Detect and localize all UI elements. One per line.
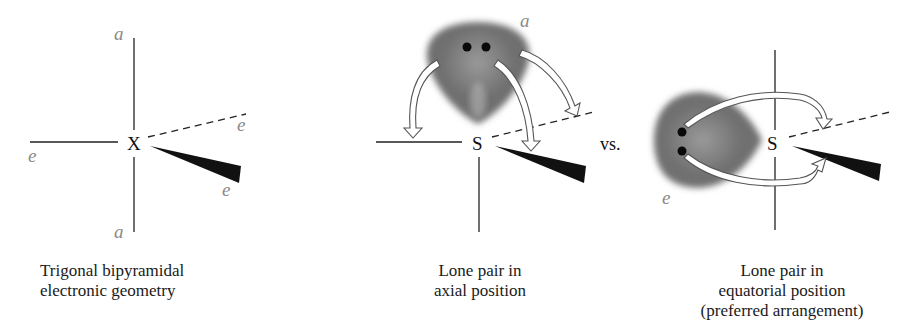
- caption-axial: Lone pair in axial position: [420, 261, 540, 301]
- equatorial-bond-dashed-axial: [492, 112, 594, 137]
- label-lone-pair-axial: a: [520, 10, 530, 31]
- label-equatorial-dashed: e: [237, 114, 245, 135]
- caption-line: axial position: [420, 281, 540, 301]
- caption-line: Lone pair in: [420, 261, 540, 281]
- equatorial-bond-wedge-eq: [792, 146, 881, 181]
- central-atom-x: X: [127, 133, 141, 154]
- equatorial-bond-wedge-axial: [495, 146, 586, 183]
- electron-dot-1: [463, 43, 472, 52]
- label-equatorial-left: e: [28, 145, 36, 166]
- label-axial-bottom: a: [114, 221, 124, 242]
- equatorial-bond-dashed: [148, 114, 246, 137]
- caption-trigonal-bipyramidal: Trigonal bipyramidal electronic geometry: [40, 261, 230, 301]
- panel-lone-pair-axial: a S: [376, 10, 594, 232]
- caption-line: Trigonal bipyramidal: [40, 261, 230, 281]
- electron-dot-2: [482, 43, 491, 52]
- caption-line: equatorial position: [692, 281, 872, 301]
- vs-separator: vs.: [600, 134, 621, 154]
- caption-line: (preferred arrangement): [692, 301, 872, 321]
- lobe-highlight: [470, 82, 486, 118]
- panel-trigonal-bipyramidal: X a a e e e: [28, 23, 246, 242]
- label-axial-top: a: [114, 23, 124, 44]
- central-atom-s-axial: S: [472, 133, 483, 154]
- equatorial-bond-wedge: [150, 146, 241, 183]
- label-equatorial-wedge: e: [222, 179, 230, 200]
- caption-line: electronic geometry: [40, 281, 230, 301]
- electron-dot-1-eq: [678, 128, 687, 137]
- panel-lone-pair-equatorial: e S: [654, 50, 890, 230]
- electron-dot-2-eq: [678, 147, 687, 156]
- central-atom-s-equatorial: S: [767, 133, 778, 154]
- caption-equatorial: Lone pair in equatorial position (prefer…: [692, 261, 872, 321]
- equatorial-bond-dashed-eq: [789, 112, 890, 137]
- label-lone-pair-equatorial: e: [662, 187, 670, 208]
- caption-line: Lone pair in: [692, 261, 872, 281]
